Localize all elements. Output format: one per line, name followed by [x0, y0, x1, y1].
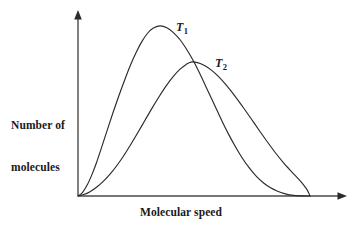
- distribution-curves: [78, 26, 310, 196]
- y-axis-label-line-1: Number of: [11, 118, 65, 132]
- curve-label-t1: T1: [164, 9, 188, 46]
- y-axis-arrowhead-icon: [74, 10, 82, 20]
- curve-label-t2-base: T: [215, 56, 222, 70]
- x-axis-arrowhead-icon: [338, 192, 348, 200]
- curve-label-t2: T2: [203, 45, 227, 82]
- maxwell-boltzmann-distribution-figure: Number of molecules Molecular speed T1 T…: [0, 0, 362, 232]
- curve-label-t1-subscript: 1: [184, 26, 188, 36]
- x-axis-label: Molecular speed: [0, 205, 362, 219]
- y-axis-label-line-2: molecules: [11, 160, 65, 174]
- y-axis: [74, 10, 82, 196]
- curve-t2: [78, 62, 310, 196]
- curve-label-t2-subscript: 2: [223, 62, 227, 72]
- curve-label-t1-base: T: [176, 20, 183, 34]
- y-axis-label: Number of molecules: [11, 90, 65, 202]
